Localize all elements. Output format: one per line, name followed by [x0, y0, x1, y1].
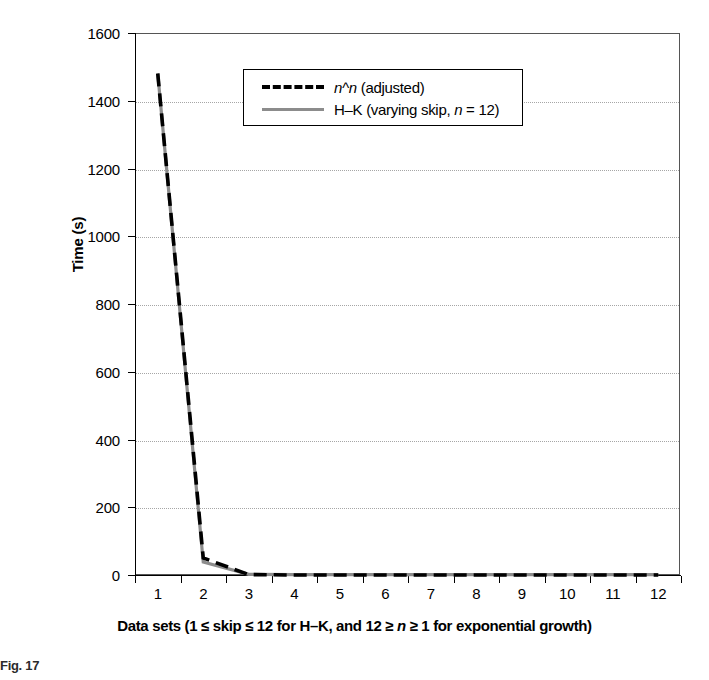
y-tick-mark: [128, 304, 136, 305]
x-tick-mark: [545, 576, 546, 583]
x-tick-mark: [454, 576, 455, 583]
gridline: [136, 305, 679, 306]
x-tick-mark: [135, 576, 136, 583]
x-tick-label-2: 2: [183, 586, 223, 601]
x-axis-title-part-2: ≥ 1 for exponential growth): [406, 617, 592, 634]
x-tick-label-7: 7: [411, 586, 451, 601]
y-tick-label-0: 0: [50, 568, 120, 583]
chart-legend: n^n (adjusted) H–K (varying skip, n = 12…: [243, 69, 523, 126]
legend-label-hk-prefix: H–K (varying skip,: [334, 101, 454, 118]
y-tick-label-200: 200: [50, 500, 120, 515]
legend-label-nn-italic: n^n: [334, 79, 357, 96]
y-tick-mark: [128, 101, 136, 102]
gridline: [136, 373, 679, 374]
chart-figure: 1600 1400 1200 1000 800 600 400 200 0 1 …: [0, 0, 709, 680]
legend-item-nn: n^n (adjusted): [244, 76, 522, 98]
x-tick-mark: [363, 576, 364, 583]
legend-label-nn: n^n (adjusted): [334, 80, 424, 95]
x-tick-mark: [590, 576, 591, 583]
y-tick-mark: [128, 440, 136, 441]
y-tick-mark: [128, 169, 136, 170]
x-axis-title-part-1: Data sets (1 ≤ skip ≤ 12 for H–K, and 12…: [117, 617, 397, 634]
legend-label-hk-rest: = 12): [462, 101, 499, 118]
x-tick-mark: [226, 576, 227, 583]
x-tick-label-8: 8: [456, 586, 496, 601]
x-tick-label-1: 1: [138, 586, 178, 601]
x-tick-mark: [499, 576, 500, 583]
x-tick-label-4: 4: [274, 586, 314, 601]
x-tick-label-12: 12: [638, 586, 678, 601]
x-tick-label-3: 3: [229, 586, 269, 601]
y-axis-title: Time (s): [69, 165, 86, 325]
x-tick-mark: [408, 576, 409, 583]
y-tick-mark: [128, 507, 136, 508]
x-tick-label-11: 11: [593, 586, 633, 601]
y-tick-label-1400: 1400: [50, 94, 120, 109]
legend-swatch-dashed-line-icon: [262, 81, 324, 93]
x-tick-mark: [317, 576, 318, 583]
y-tick-mark: [128, 236, 136, 237]
x-axis-title-italic-n: n: [397, 617, 406, 634]
x-tick-label-5: 5: [320, 586, 360, 601]
y-tick-label-1600: 1600: [50, 26, 120, 41]
x-tick-mark: [636, 576, 637, 583]
legend-label-hk: H–K (varying skip, n = 12): [334, 102, 499, 117]
x-tick-label-9: 9: [502, 586, 542, 601]
gridline: [136, 237, 679, 238]
y-tick-mark: [128, 33, 136, 34]
legend-swatch-solid-line-icon: [262, 103, 324, 115]
x-tick-mark: [181, 576, 182, 583]
x-axis-title: Data sets (1 ≤ skip ≤ 12 for H–K, and 12…: [0, 617, 709, 634]
y-tick-mark: [128, 372, 136, 373]
page-caption-artifact: Fig. 17: [0, 658, 80, 680]
gridline: [136, 508, 679, 509]
legend-label-nn-rest: (adjusted): [357, 79, 425, 96]
x-tick-label-6: 6: [365, 586, 405, 601]
x-tick-mark: [272, 576, 273, 583]
x-tick-label-10: 10: [547, 586, 587, 601]
legend-item-hk: H–K (varying skip, n = 12): [244, 98, 522, 120]
x-tick-mark: [681, 576, 682, 583]
y-tick-label-400: 400: [50, 433, 120, 448]
y-tick-label-600: 600: [50, 365, 120, 380]
gridline: [136, 170, 679, 171]
gridline: [136, 441, 679, 442]
